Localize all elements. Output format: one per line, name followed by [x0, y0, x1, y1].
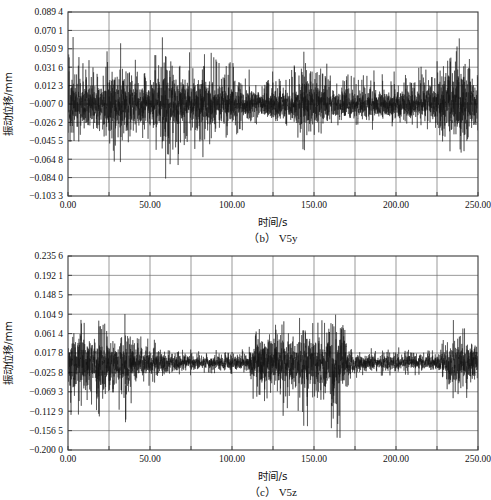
x-tick-label: 150.00 [301, 200, 327, 210]
x-tick-label: 200.00 [383, 200, 409, 210]
y-tick-label: 0.235 6 [35, 251, 64, 261]
y-tick-label: −0.112 9 [29, 407, 63, 417]
y-tick-label: 0.050 9 [35, 44, 64, 54]
y-tick-label: 0.089 4 [35, 7, 64, 17]
chart-v5y: 振动位移/mm0.089 40.070 10.050 90.031 60.012… [0, 0, 491, 245]
x-tick-label: 250.00 [465, 200, 491, 210]
y-tick-label: −0.084 0 [29, 173, 63, 183]
x-tick-label: 0.00 [60, 454, 77, 464]
panel-caption: （c） V5z [249, 486, 297, 498]
y-tick-label: 0.017 8 [35, 348, 64, 358]
y-tick-label: −0.045 5 [29, 136, 63, 146]
y-tick-label: −0.026 2 [29, 118, 63, 128]
y-tick-label: −0.156 5 [29, 426, 63, 436]
x-tick-label: 50.00 [139, 454, 161, 464]
x-tick-label: 250.00 [465, 454, 491, 464]
y-tick-label: −0.007 0 [29, 99, 63, 109]
x-tick-label: 150.00 [301, 454, 327, 464]
y-tick-label: 0.104 9 [35, 310, 64, 320]
x-tick-label: 200.00 [383, 454, 409, 464]
y-tick-label: 0.061 4 [35, 329, 64, 339]
y-tick-label: 0.031 6 [35, 63, 64, 73]
x-tick-label: 100.00 [219, 454, 245, 464]
panel-caption: （b） V5y [248, 232, 298, 244]
y-tick-label: −0.069 3 [29, 387, 63, 397]
chart-panel-v5z: 振动位移/mm0.235 60.192 10.148 50.104 90.061… [0, 245, 491, 500]
y-axis-title: 振动位移/mm [2, 72, 14, 136]
chart-panel-v5y: 振动位移/mm0.089 40.070 10.050 90.031 60.012… [0, 0, 491, 245]
y-tick-label: 0.148 5 [35, 290, 64, 300]
x-axis-title: 时间/s [258, 470, 287, 482]
y-tick-label: 0.012 3 [35, 81, 64, 91]
figure-container: 振动位移/mm0.089 40.070 10.050 90.031 60.012… [0, 0, 491, 500]
x-tick-label: 50.00 [139, 200, 161, 210]
x-tick-label: 100.00 [219, 200, 245, 210]
y-tick-label: −0.064 8 [29, 155, 63, 165]
y-tick-label: 0.192 1 [35, 271, 64, 281]
y-tick-label: 0.070 1 [35, 26, 64, 36]
x-tick-label: 0.00 [60, 200, 77, 210]
y-axis-title: 振动位移/mm [2, 321, 14, 385]
chart-v5z: 振动位移/mm0.235 60.192 10.148 50.104 90.061… [0, 245, 491, 500]
y-tick-label: −0.200 0 [29, 445, 63, 455]
y-tick-label: −0.025 8 [29, 368, 63, 378]
x-axis-title: 时间/s [258, 216, 287, 228]
y-tick-label: −0.103 3 [29, 191, 63, 201]
